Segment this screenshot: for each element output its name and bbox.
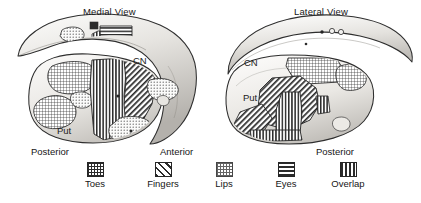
legend-label-eyes: Eyes	[255, 178, 317, 189]
legend-item-toes: Toes	[64, 162, 126, 189]
medial-satellite-blob	[157, 95, 169, 105]
orientation-posterior-left: Posterior	[31, 146, 69, 157]
legend-label-overlap: Overlap	[317, 178, 379, 189]
legend-label-toes: Toes	[64, 178, 126, 189]
legend-swatch-eyes	[278, 162, 295, 177]
legend-item-eyes: Eyes	[255, 162, 317, 189]
lateral-view-drawing	[226, 15, 412, 144]
legend-label-fingers: Fingers	[132, 178, 194, 189]
legend-item-overlap: Overlap	[317, 162, 379, 189]
medial-view-title: Medial View	[83, 6, 136, 17]
orientation-anterior: Anterior	[160, 146, 193, 157]
legend-item-lips: Lips	[193, 162, 255, 189]
legend: Toes Fingers Lips Eyes Overlap	[0, 162, 421, 203]
legend-swatch-fingers	[155, 162, 172, 177]
legend-item-fingers: Fingers	[132, 162, 194, 189]
legend-swatch-toes	[87, 162, 104, 177]
legend-swatch-overlap	[340, 162, 357, 177]
legend-swatch-lips	[216, 162, 233, 177]
medial-view-drawing	[18, 14, 196, 144]
orientation-posterior-right: Posterior	[316, 146, 354, 157]
lateral-satellite-blob	[332, 117, 350, 131]
legend-label-lips: Lips	[193, 178, 255, 189]
lateral-view-title: Lateral View	[294, 6, 348, 17]
